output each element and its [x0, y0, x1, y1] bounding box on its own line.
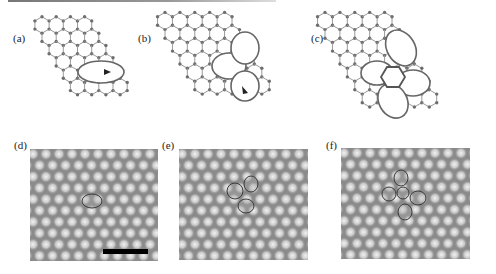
scale-bar — [103, 249, 148, 254]
panel-label-d: (d) — [14, 140, 27, 151]
image-panel-e — [179, 149, 308, 260]
image-panel-f — [341, 148, 470, 259]
lattice-a — [33, 15, 129, 96]
lattice-c — [316, 11, 439, 124]
image-panel-d — [30, 149, 158, 261]
lattice-b — [156, 11, 271, 101]
atomic-models — [0, 0, 496, 140]
panel-label-e: (e) — [162, 140, 174, 151]
panel-label-f: (f) — [326, 140, 337, 151]
